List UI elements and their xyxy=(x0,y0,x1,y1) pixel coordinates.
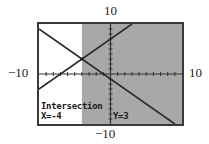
y-readout: Y=3 xyxy=(113,112,128,121)
calculator-graph-screen: Intersection X=-4 Y=3 xyxy=(37,22,184,126)
ymax-label: 10 xyxy=(104,4,117,17)
intersection-cursor xyxy=(80,58,83,61)
xmax-label: 10 xyxy=(189,66,202,79)
ymin-label: −10 xyxy=(95,127,115,140)
x-readout: X=-4 xyxy=(41,112,61,121)
xmin-label: −10 xyxy=(8,66,28,79)
intersection-label: Intersection xyxy=(41,102,102,111)
